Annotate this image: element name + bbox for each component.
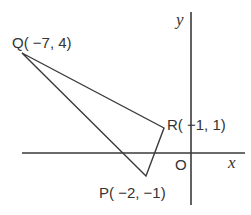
y-axis-label: y (174, 10, 184, 29)
point-r-label: R( −1, 1) (167, 116, 226, 133)
triangle-pqr (22, 53, 164, 176)
diagram-svg: Q( −7, 4) y R( −1, 1) O x P( −2, −1) (0, 0, 251, 215)
coordinate-diagram: Q( −7, 4) y R( −1, 1) O x P( −2, −1) (0, 0, 251, 215)
point-q-label: Q( −7, 4) (12, 34, 72, 51)
point-p-label: P( −2, −1) (99, 184, 166, 201)
x-axis-label: x (227, 153, 236, 172)
origin-label: O (175, 156, 187, 173)
